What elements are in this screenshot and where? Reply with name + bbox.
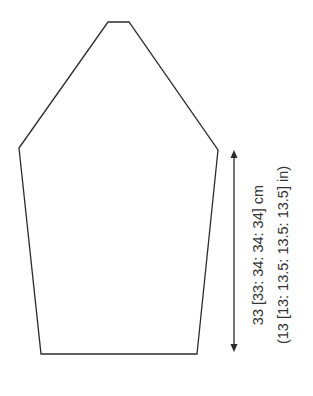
arrow-up-icon <box>231 150 238 158</box>
sleeve-outline <box>19 22 218 354</box>
sleeve-schematic: 33 [33: 34: 34: 34] cm (13 [13: 13.5: 13… <box>0 0 313 396</box>
measurement-label-cm: 33 [33: 34: 34: 34] cm <box>250 185 266 325</box>
arrow-down-icon <box>231 344 238 352</box>
measurement-label-in: (13 [13: 13.5: 13.5: 13.5] in) <box>275 166 291 344</box>
length-measurement-arrow <box>231 150 238 352</box>
